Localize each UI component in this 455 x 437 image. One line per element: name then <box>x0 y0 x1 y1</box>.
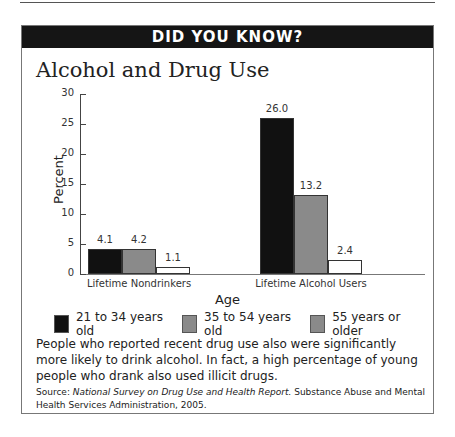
source-title: National Survey on Drug Use and Health R… <box>73 387 292 397</box>
bar-value-label: 4.2 <box>119 234 159 245</box>
category-label: Lifetime Nondrinkers <box>69 278 209 289</box>
y-tick <box>80 94 86 95</box>
y-tick-label: 0 <box>54 267 74 278</box>
bar <box>294 195 328 274</box>
y-tick <box>80 154 86 155</box>
y-tick <box>80 124 86 125</box>
y-axis-label: Percent <box>51 150 66 210</box>
bar-value-label: 26.0 <box>257 103 297 114</box>
category-label: Lifetime Alcohol Users <box>241 278 381 289</box>
legend-label: 35 to 54 years old <box>204 310 292 338</box>
bar <box>260 118 294 274</box>
body-text: People who reported recent drug use also… <box>36 336 426 384</box>
y-tick-label: 25 <box>54 117 74 128</box>
x-axis-label: Age <box>22 292 433 307</box>
legend-item: 21 to 34 years old <box>54 310 164 338</box>
y-tick <box>80 274 86 275</box>
bar <box>328 260 362 274</box>
legend-swatch <box>310 315 325 333</box>
y-tick-label: 30 <box>54 87 74 98</box>
legend-item: 55 years or older <box>310 310 415 338</box>
legend-item: 35 to 54 years old <box>182 310 292 338</box>
bar <box>88 249 122 274</box>
y-tick <box>80 184 86 185</box>
source-prefix: Source: <box>36 387 73 397</box>
legend-swatch <box>54 315 69 333</box>
source-note: Source: National Survey on Drug Use and … <box>36 386 426 412</box>
top-rule <box>20 2 435 3</box>
legend-swatch <box>182 315 197 333</box>
bar-value-label: 13.2 <box>291 180 331 191</box>
banner: DID YOU KNOW? <box>22 26 433 48</box>
bar-value-label: 1.1 <box>153 252 193 263</box>
bar-value-label: 2.4 <box>325 245 365 256</box>
did-you-know-box: DID YOU KNOW? Alcohol and Drug Use 05101… <box>21 25 434 414</box>
y-tick-label: 5 <box>54 237 74 248</box>
bar <box>122 249 156 274</box>
legend-label: 21 to 34 years old <box>76 310 164 338</box>
y-tick <box>80 214 86 215</box>
legend-label: 55 years or older <box>332 310 415 338</box>
bar <box>156 267 190 274</box>
legend: 21 to 34 years old35 to 54 years old55 y… <box>54 310 433 338</box>
x-axis <box>80 274 425 275</box>
chart-title: Alcohol and Drug Use <box>36 58 269 82</box>
